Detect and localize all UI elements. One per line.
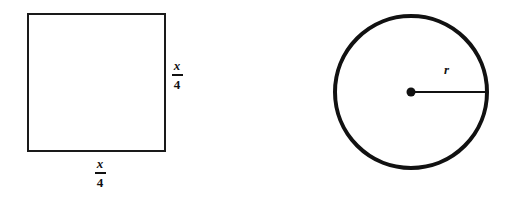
square-height-label: x 4 <box>168 56 186 94</box>
square-width-denominator: 4 <box>96 175 105 189</box>
fraction-bar-icon <box>95 172 106 174</box>
square-height-numerator: x <box>173 59 182 73</box>
fraction-bar-icon <box>172 74 183 76</box>
square-height-denominator: 4 <box>173 77 182 91</box>
square-shape <box>28 14 165 151</box>
radius-label: r <box>444 63 449 76</box>
circle-center-point <box>407 88 416 97</box>
geometry-figure-canvas: x 4 x 4 r <box>0 0 511 204</box>
square-width-numerator: x <box>96 157 105 171</box>
figure-vector-layer <box>0 0 511 204</box>
square-width-label: x 4 <box>91 154 109 192</box>
